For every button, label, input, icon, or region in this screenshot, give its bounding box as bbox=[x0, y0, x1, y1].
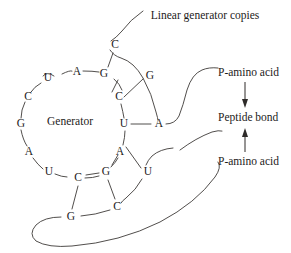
ring-base-u-lower: U bbox=[45, 165, 54, 177]
ring-base-u-upper: U bbox=[44, 71, 53, 83]
ring-arc bbox=[123, 131, 125, 145]
ring-base-c-bottom: C bbox=[74, 171, 82, 183]
ring-base-a-right: A bbox=[116, 145, 125, 157]
strand-base-c-top: C bbox=[111, 38, 119, 50]
upper-strand-tail bbox=[166, 68, 218, 124]
ring-arc bbox=[111, 158, 118, 167]
upper-strand-lead bbox=[111, 11, 143, 41]
arrow-up-icon bbox=[242, 128, 248, 152]
upper-strand-curve bbox=[110, 50, 158, 120]
ring-base-g-bottom: G bbox=[102, 165, 110, 177]
ring-base-a-left: A bbox=[25, 145, 34, 157]
label-p-amino-acid-bottom: P-amino acid bbox=[218, 155, 279, 167]
lower-strand-seg bbox=[81, 210, 110, 216]
upper-strand-backbone bbox=[110, 11, 218, 124]
strand-base-g-bot: G bbox=[67, 210, 75, 222]
strand-base-a-top: A bbox=[155, 117, 164, 129]
bond-g-c bbox=[108, 53, 113, 67]
ring-arc bbox=[62, 71, 72, 74]
bond-c-g-link bbox=[86, 173, 99, 175]
strand-base-g-top: G bbox=[146, 69, 154, 81]
label-peptide-bond: Peptide bond bbox=[218, 111, 279, 124]
ring-arc bbox=[21, 130, 27, 146]
ring-base-g-left: G bbox=[17, 117, 25, 129]
ring-base-u-right: U bbox=[120, 117, 129, 129]
strand-bases: C G A U C G bbox=[67, 38, 164, 222]
generator-center-label: Generator bbox=[47, 115, 93, 127]
ring-arc bbox=[85, 176, 99, 178]
diagram-title: Linear generator copies bbox=[151, 9, 260, 22]
ring-base-g-top: G bbox=[100, 67, 108, 79]
strand-base-c-bot: C bbox=[113, 200, 121, 212]
lower-strand-curve bbox=[121, 179, 142, 203]
ring-base-c-upper: C bbox=[115, 90, 123, 102]
ring-arc bbox=[31, 83, 41, 92]
ring-arc bbox=[21, 102, 25, 118]
label-p-amino-acid-top: P-amino acid bbox=[218, 66, 279, 78]
bond-g-c-lower bbox=[108, 180, 115, 199]
bond-a-u bbox=[126, 147, 141, 168]
ring-base-c-left: C bbox=[24, 90, 32, 102]
bond-c-g bbox=[124, 79, 143, 97]
lower-strand-loop bbox=[32, 162, 219, 246]
arrow-down-icon bbox=[242, 82, 248, 108]
strand-base-u-bot: U bbox=[144, 165, 153, 177]
ring-arc bbox=[33, 158, 43, 169]
lower-strand-inner bbox=[180, 131, 222, 150]
ring-arc bbox=[55, 174, 67, 177]
ring-arc bbox=[83, 71, 99, 72]
lower-strand-lead bbox=[146, 148, 173, 165]
bond-c-g-lower bbox=[72, 186, 78, 209]
base-pair-bonds bbox=[72, 53, 151, 209]
ring-base-a-top: A bbox=[73, 65, 82, 77]
generator-diagram: A U C G A U C G A U C G C G A U C G Gene… bbox=[0, 0, 291, 253]
